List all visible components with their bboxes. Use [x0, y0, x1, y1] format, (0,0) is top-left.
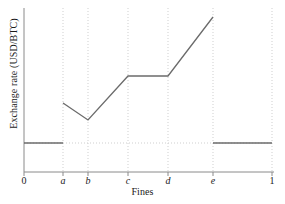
x-tick-label-b: b: [76, 175, 100, 186]
y-axis-title: Exchange rate (USD/BTC): [8, 9, 19, 139]
exchange-rate-curve: [24, 17, 272, 143]
x-tick-label-d: d: [156, 175, 180, 186]
x-tick-label-0: 0: [12, 175, 36, 186]
x-axis-title: Fines: [0, 186, 285, 197]
x-tick-label-a: a: [51, 175, 75, 186]
x-tick-label-e: e: [201, 175, 225, 186]
chart-figure: Exchange rate (USD/BTC) Fines 0 a b c d …: [0, 0, 285, 204]
x-tick-label-one: 1: [260, 175, 284, 186]
curve-segment-main: [63, 17, 213, 120]
x-tick-label-c: c: [116, 175, 140, 186]
plot-canvas: [0, 0, 285, 204]
vertical-gridlines: [63, 8, 272, 172]
